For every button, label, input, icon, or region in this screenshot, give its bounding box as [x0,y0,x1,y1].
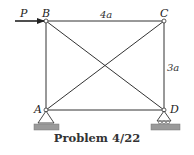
ground-A [34,124,59,130]
joint-label-D: D [169,103,179,116]
width-dimension: 4a [99,9,112,20]
roller-wheel [163,121,166,124]
ground-D [151,124,180,130]
joint-label-A: A [33,103,42,116]
roller-wheel [167,121,170,124]
load-label: P [19,7,28,20]
joint-label-C: C [160,7,169,20]
truss-diagram: P B C A D 4a 3a Problem 4/22 [0,0,194,155]
joint-label-B: B [41,7,50,20]
problem-caption: Problem 4/22 [54,131,140,145]
height-dimension: 3a [167,62,179,73]
roller-wheel [159,121,162,124]
